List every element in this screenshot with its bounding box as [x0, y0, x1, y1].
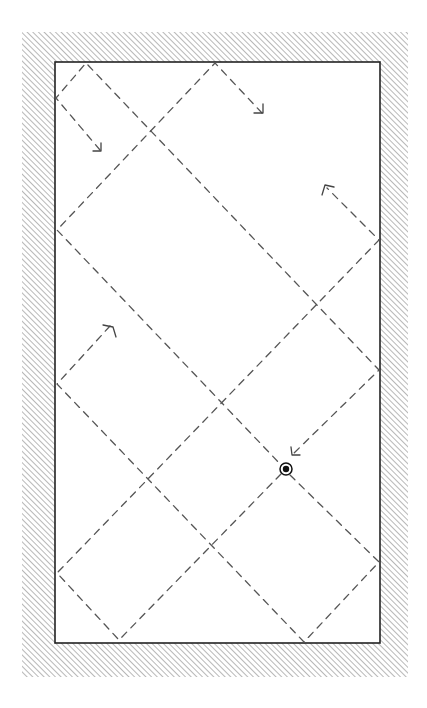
ball: [280, 463, 292, 475]
table-frame: [22, 32, 408, 677]
ball-center: [283, 466, 289, 472]
billiard-reflection-diagram: [0, 0, 427, 708]
table-surface: [55, 62, 380, 643]
